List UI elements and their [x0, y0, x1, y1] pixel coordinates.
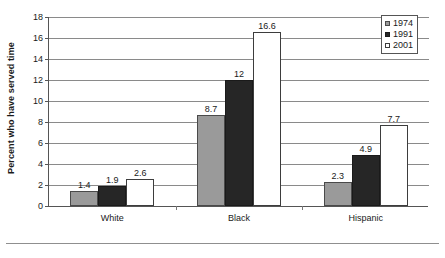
legend-item: 1974 — [385, 18, 413, 29]
y-tick-mark — [45, 143, 49, 144]
bar-black-1974: 8.7 — [197, 115, 225, 206]
bar-value-label: 1.9 — [106, 175, 119, 185]
bar-group: 8.71216.6 — [197, 17, 281, 206]
y-tick-mark — [45, 59, 49, 60]
bar-chart-figure: Percent who have served time 02468101214… — [0, 0, 445, 258]
x-axis-label-white: White — [101, 213, 124, 223]
bar-value-label: 12 — [234, 69, 244, 79]
bar-group: 1.41.92.6 — [70, 17, 154, 206]
legend-item: 1991 — [385, 29, 413, 40]
bar-value-label: 1.4 — [78, 180, 91, 190]
bar-value-label: 16.6 — [258, 21, 276, 31]
legend-swatch-1991 — [385, 32, 390, 37]
footer-divider — [6, 243, 439, 244]
legend-label-1974: 1974 — [393, 18, 413, 29]
y-tick-label: 12 — [33, 75, 43, 85]
y-tick-label: 8 — [38, 117, 43, 127]
bar-black-2001: 16.6 — [253, 32, 281, 206]
y-tick-mark — [45, 122, 49, 123]
bar-white-1974: 1.4 — [70, 191, 98, 206]
y-tick-mark — [45, 206, 49, 207]
y-tick-mark — [45, 80, 49, 81]
x-axis-label-black: Black — [228, 213, 250, 223]
legend-item: 2001 — [385, 40, 413, 51]
y-tick-label: 16 — [33, 33, 43, 43]
x-tick-mark — [302, 206, 303, 210]
y-axis-title: Percent who have served time — [2, 0, 20, 215]
y-tick-label: 14 — [33, 54, 43, 64]
y-tick-label: 2 — [38, 180, 43, 190]
chart-legend: 1974 1991 2001 — [381, 15, 418, 54]
bar-hispanic-2001: 7.7 — [380, 125, 408, 206]
legend-swatch-1974 — [385, 21, 390, 26]
plot-area: 024681012141618 1.41.92.6White8.71216.6B… — [48, 17, 428, 207]
y-tick-mark — [45, 17, 49, 18]
y-tick-mark — [45, 164, 49, 165]
bar-hispanic-1991: 4.9 — [352, 155, 380, 206]
y-tick-mark — [45, 38, 49, 39]
bar-hispanic-1974: 2.3 — [324, 182, 352, 206]
legend-swatch-2001 — [385, 43, 390, 48]
x-axis-label-hispanic: Hispanic — [348, 213, 383, 223]
y-tick-mark — [45, 185, 49, 186]
bar-black-1991: 12 — [225, 80, 253, 206]
x-tick-mark — [176, 206, 177, 210]
y-tick-label: 4 — [38, 159, 43, 169]
y-tick-label: 18 — [33, 12, 43, 22]
bar-value-label: 7.7 — [387, 114, 400, 124]
y-axis-title-text: Percent who have served time — [6, 42, 16, 174]
bar-value-label: 2.3 — [331, 171, 344, 181]
legend-label-1991: 1991 — [393, 29, 413, 40]
y-tick-mark — [45, 101, 49, 102]
bar-value-label: 8.7 — [205, 104, 218, 114]
y-tick-label: 6 — [38, 138, 43, 148]
bar-value-label: 4.9 — [359, 144, 372, 154]
legend-label-2001: 2001 — [393, 40, 413, 51]
bar-white-2001: 2.6 — [126, 179, 154, 206]
y-tick-label: 0 — [38, 201, 43, 211]
bar-white-1991: 1.9 — [98, 186, 126, 206]
bar-value-label: 2.6 — [134, 168, 147, 178]
y-tick-label: 10 — [33, 96, 43, 106]
